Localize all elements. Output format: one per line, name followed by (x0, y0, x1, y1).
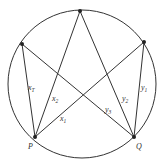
point-upper-right (142, 40, 146, 44)
point-P (33, 135, 37, 139)
label-y-1: y1 (140, 83, 148, 93)
point-upper-left (20, 42, 24, 46)
label-x-2: x2 (51, 94, 59, 104)
label-y-2: y2 (121, 94, 129, 104)
label-P: P (27, 142, 33, 151)
point-Q (132, 135, 136, 139)
label-y-3: y3 (104, 105, 112, 115)
label-x-T: xT (27, 83, 36, 93)
point-top (78, 9, 82, 13)
chord-upper-left-to-Q (22, 44, 134, 137)
circle-star-diagram: xT x2 x1 y3 y2 y1 P Q (0, 0, 165, 166)
label-x-1: x1 (59, 114, 67, 124)
diagram-canvas: xT x2 x1 y3 y2 y1 P Q (0, 0, 165, 166)
chord-top-to-Q (80, 11, 134, 137)
label-Q: Q (136, 142, 142, 151)
